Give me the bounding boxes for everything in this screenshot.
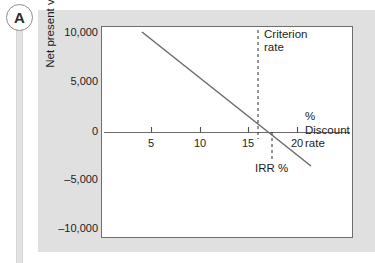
y-tick-label: –10,000 bbox=[58, 222, 98, 234]
x-tick-label: 20 bbox=[291, 137, 303, 149]
panel-spine bbox=[16, 18, 23, 263]
y-tick-label: 10,000 bbox=[64, 26, 98, 38]
x-tick-label: 5 bbox=[148, 137, 154, 149]
y-tick-label: –5,000 bbox=[64, 173, 98, 185]
irr-annotation: IRR % bbox=[255, 162, 288, 175]
criterion-rate-label-line1: Criterion bbox=[264, 28, 307, 41]
y-tick-label: 5,000 bbox=[70, 75, 98, 87]
y-tick-label-column: 10,000 5,000 0 –5,000 –10,000 bbox=[40, 0, 98, 263]
figure-root: A Net present value ($) 10,000 5,000 0 –… bbox=[0, 0, 375, 263]
x-tick-label: 10 bbox=[194, 137, 206, 149]
x-axis-title: % Discount rate bbox=[305, 110, 350, 151]
x-axis-title-line2: Discount bbox=[305, 124, 350, 138]
criterion-rate-annotation: Criterion rate bbox=[264, 28, 307, 54]
x-axis-title-line1: % bbox=[305, 110, 350, 124]
x-tick-label: 15 bbox=[242, 137, 254, 149]
x-axis-title-line3: rate bbox=[305, 137, 350, 151]
criterion-rate-label-line2: rate bbox=[264, 41, 307, 54]
panel-letter-badge: A bbox=[6, 4, 33, 31]
y-tick-label: 0 bbox=[92, 125, 98, 137]
